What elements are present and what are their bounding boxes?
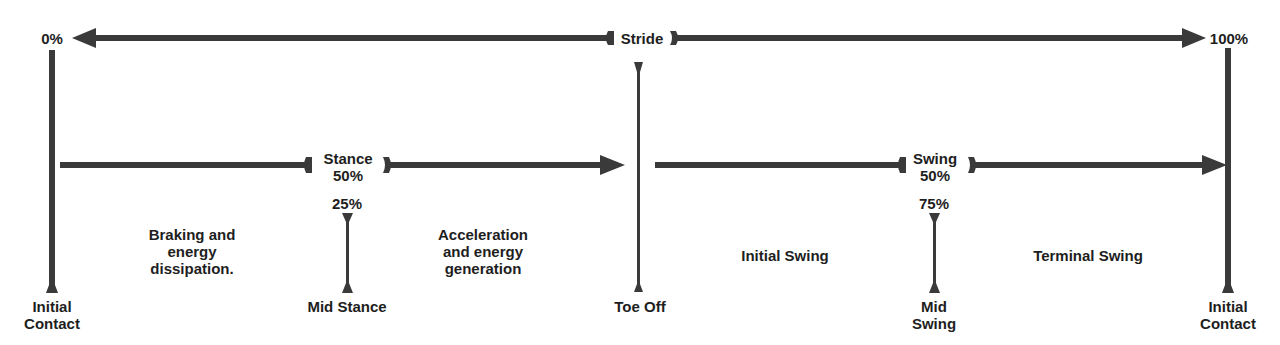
stance-title: Stance <box>323 150 372 167</box>
initial-contact-start-label: Initial Contact <box>24 298 80 332</box>
toe-off-label: Toe Off <box>614 298 665 315</box>
swing-pct: 50% <box>913 167 957 184</box>
stance-pct: 50% <box>323 167 372 184</box>
mid-stance-line <box>342 213 353 293</box>
gait-diagram-lines <box>0 0 1280 345</box>
mid-swing-line <box>929 213 940 293</box>
braking-description: Braking and energy dissipation. <box>149 226 236 277</box>
stride-end-label: 100% <box>1210 30 1248 47</box>
stride-start-label: 0% <box>41 30 63 47</box>
terminal-swing-label: Terminal Swing <box>1033 247 1143 264</box>
stride-arrow-left <box>72 28 614 48</box>
initial-swing-label: Initial Swing <box>741 247 829 264</box>
mid-swing-pct: 75% <box>919 195 949 212</box>
stride-arrow-right <box>670 28 1206 48</box>
swing-title: Swing <box>913 150 957 167</box>
acceleration-description: Acceleration and energy generation <box>438 226 528 277</box>
initial-contact-line-start <box>46 50 58 293</box>
mid-stance-label: Mid Stance <box>307 298 386 315</box>
mid-swing-label: Mid Swing <box>912 298 956 332</box>
swing-label: Swing 50% <box>913 150 957 184</box>
mid-stance-pct: 25% <box>332 195 362 212</box>
stride-label: Stride <box>621 30 664 47</box>
initial-contact-end-label: Initial Contact <box>1200 298 1256 332</box>
toe-off-line <box>634 62 643 292</box>
stance-label: Stance 50% <box>323 150 372 184</box>
initial-contact-line-end <box>1222 48 1234 293</box>
